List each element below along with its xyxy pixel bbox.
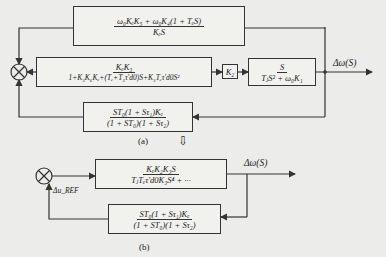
output-label-b: Δω(S) [244,158,267,168]
denominator: (1 + ST₀)(1 + Sτ₂) [104,118,172,128]
numerator: ST₀(1 + Sτ₁)Kₑ [137,209,193,220]
block-bottom-feedback: ST₀(1 + Sτ₁)Kₑ (1 + ST₀)(1 + Sτ₂) [83,102,193,132]
numerator: S [277,62,287,73]
caption-a: (a) [138,136,148,146]
numerator: ST₀(1 + Sτ₁)Kₑ [110,107,166,118]
input-label-ref: Δu_REF [53,186,79,195]
block-forward-b: KₑK₂K₃S TⱼTₑτ′d0K₃S⁴ + ··· [95,159,227,189]
transform-arrow-icon: ⇩ [178,134,188,149]
numerator: KₑK₃ [113,62,136,73]
block-feedback-b: ST₀(1 + Sτ₁)Kₑ (1 + ST₀)(1 + Sτ₂) [108,204,221,234]
denominator: TⱼTₑτ′d0K₃S⁴ + ··· [128,175,194,185]
block-k2-gain: K₂ [222,64,238,79]
block-main-transfer: KₑK₃ 1+K₃K₆Kₑ+(Tₑ+T₃τ′d0)S+K₃Tₑτ′d0S² [36,57,212,87]
output-label-a: Δω(S) [333,58,356,68]
block-top-feedback: ω₀KₑK₅ + ω₀K₄(1 + TₑS) KₑS [73,6,245,46]
denominator: KₑS [150,27,168,37]
denominator: 1+K₃K₆Kₑ+(Tₑ+T₃τ′d0)S+K₃Tₑτ′d0S² [65,73,182,83]
caption-b: (b) [139,242,150,252]
denominator: TⱼS² + ω₀K₁ [258,73,305,83]
gain-label: K₂ [226,67,235,77]
numerator: ω₀KₑK₅ + ω₀K₄(1 + TₑS) [114,16,204,27]
numerator: KₑK₂K₃S [143,164,178,175]
block-plant: S TⱼS² + ω₀K₁ [248,58,316,86]
denominator: (1 + ST₀)(1 + Sτ₂) [131,220,199,230]
